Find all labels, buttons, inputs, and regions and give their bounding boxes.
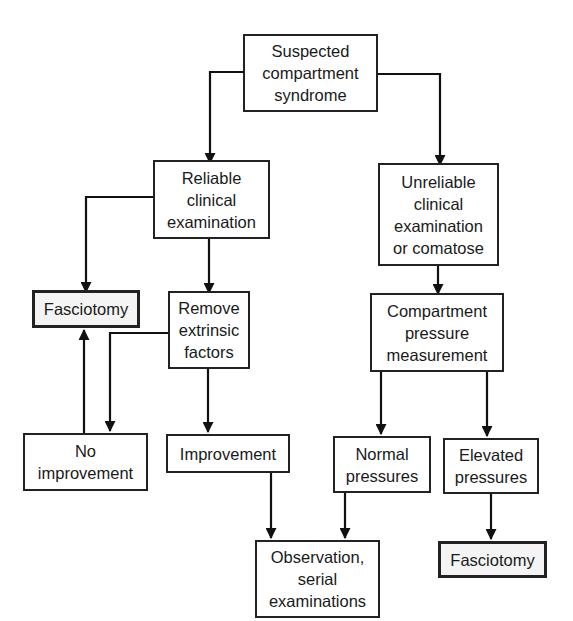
edge-suspected-to-unreliable xyxy=(378,74,440,165)
node-text: improvement xyxy=(38,462,133,484)
node-text: Fasciotomy xyxy=(44,298,128,320)
node-unreliable-clinical-examination: Unreliable clinical examination or comat… xyxy=(378,163,499,266)
node-fasciotomy-left: Fasciotomy xyxy=(32,290,140,328)
node-text: Compartment xyxy=(387,300,487,322)
node-reliable-clinical-examination: Reliable clinical examination xyxy=(153,160,270,239)
edge-remove-to-no-improvement xyxy=(110,333,168,431)
node-text: Suspected xyxy=(272,40,350,62)
node-text: factors xyxy=(184,341,234,363)
node-text: Improvement xyxy=(180,443,276,465)
node-text: Observation, xyxy=(271,546,365,568)
node-text: syndrome xyxy=(274,84,346,106)
node-no-improvement: No improvement xyxy=(23,433,148,491)
node-text: compartment xyxy=(262,62,358,84)
node-text: clinical xyxy=(187,189,237,211)
node-observation-serial-examinations: Observation, serial examinations xyxy=(255,540,380,618)
node-text: pressures xyxy=(346,465,418,487)
node-normal-pressures: Normal pressures xyxy=(333,436,431,493)
node-text: clinical xyxy=(414,193,464,215)
node-text: examinations xyxy=(269,590,366,612)
node-text: Elevated xyxy=(459,444,523,466)
node-fasciotomy-right: Fasciotomy xyxy=(438,541,547,578)
node-text: pressure xyxy=(405,322,469,344)
node-text: Unreliable xyxy=(401,171,475,193)
node-text: pressures xyxy=(455,466,527,488)
node-remove-extrinsic-factors: Remove extrinsic factors xyxy=(168,291,250,369)
node-text: measurement xyxy=(387,344,488,366)
node-text: or comatose xyxy=(393,237,484,259)
node-text: Reliable xyxy=(182,167,242,189)
node-text: No xyxy=(75,440,96,462)
node-suspected-compartment-syndrome: Suspected compartment syndrome xyxy=(243,34,378,112)
node-text: examination xyxy=(394,215,483,237)
edge-suspected-to-reliable xyxy=(210,72,243,163)
edge-reliable-to-fasciotomy xyxy=(86,197,153,292)
node-improvement: Improvement xyxy=(166,434,290,473)
node-elevated-pressures: Elevated pressures xyxy=(443,438,539,494)
node-compartment-pressure-measurement: Compartment pressure measurement xyxy=(370,293,504,372)
node-text: serial xyxy=(298,568,337,590)
node-text: examination xyxy=(167,211,256,233)
node-text: Fasciotomy xyxy=(450,549,534,571)
node-text: Normal xyxy=(355,443,408,465)
node-text: Remove xyxy=(178,297,239,319)
node-text: extrinsic xyxy=(179,319,240,341)
flowchart-canvas: Suspected compartment syndrome Reliable … xyxy=(0,0,573,621)
